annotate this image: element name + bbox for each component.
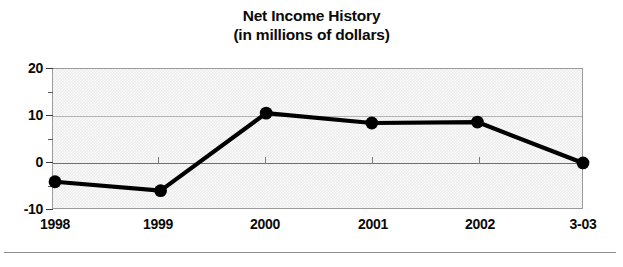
ytick-label-0: 0: [0, 155, 43, 169]
chart-subtitle: (in millions of dollars): [0, 25, 623, 44]
xtick-label-2002: 2002: [440, 216, 520, 232]
ytick-label-20: 20: [0, 61, 43, 75]
chart-title: Net Income History: [0, 6, 623, 25]
ytick-mark-10: [46, 115, 53, 116]
xtick-2000: [265, 157, 266, 164]
ytick-mark-0: [46, 162, 53, 163]
gridline-zero: [53, 163, 582, 164]
xtick-2001: [372, 157, 373, 164]
xtick-label-2001: 2001: [333, 216, 413, 232]
xtick-1999: [158, 157, 159, 164]
xtick-label-2000: 2000: [225, 216, 305, 232]
xtick-label-3-03: 3-03: [543, 216, 623, 232]
xtick-label-1998: 1998: [15, 216, 95, 232]
ytick-label-10: 10: [0, 108, 43, 122]
chart-page: Net Income History (in millions of dolla…: [0, 0, 623, 267]
plot-area: [52, 68, 583, 209]
chart-title-block: Net Income History (in millions of dolla…: [0, 6, 623, 44]
ytick-mark-15: [48, 92, 53, 93]
ytick-mark-neg5: [48, 186, 53, 187]
page-bottom-rule: [4, 252, 616, 253]
ytick-mark-neg10: [46, 209, 53, 210]
xtick-label-1999: 1999: [118, 216, 198, 232]
ytick-label-neg10: -10: [0, 202, 43, 216]
ytick-mark-5: [48, 139, 53, 140]
ytick-mark-20: [46, 68, 53, 69]
xtick-2002: [479, 157, 480, 164]
gridline-10: [53, 116, 582, 117]
